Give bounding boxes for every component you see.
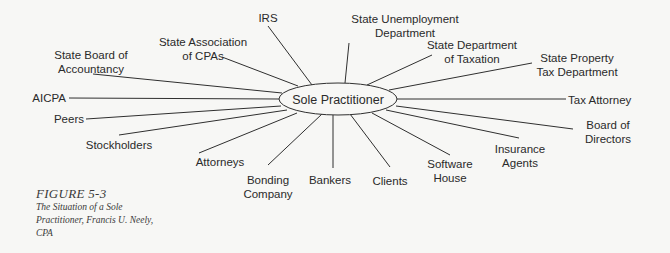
node-label-line: Attorneys — [196, 156, 245, 168]
node-stockholders: Stockholders — [86, 139, 153, 151]
node-attorneys: Attorneys — [196, 156, 245, 168]
node-software-house: SoftwareHouse — [427, 158, 472, 184]
connector-line-state-unemployment — [345, 43, 349, 83]
node-label-line: Agents — [502, 157, 538, 169]
node-label-line: Tax Attorney — [568, 94, 632, 106]
node-board-of-directors: Board ofDirectors — [585, 119, 631, 145]
hub-group: Sole Practitioner — [279, 83, 397, 115]
figure-canvas: Sole Practitioner IRSState UnemploymentD… — [0, 0, 670, 253]
node-label-line: Stockholders — [86, 139, 153, 151]
node-bankers: Bankers — [309, 174, 351, 186]
node-irs: IRS — [258, 12, 278, 24]
node-label-line: Insurance — [495, 143, 546, 155]
node-label-line: Bonding — [247, 174, 289, 186]
node-label-line: Department — [375, 27, 436, 39]
node-label-line: State Department — [427, 39, 518, 51]
node-label-line: House — [433, 172, 466, 184]
node-label-line: of CPAs — [182, 50, 224, 62]
node-label-line: Directors — [585, 133, 631, 145]
node-label-line: IRS — [258, 12, 278, 24]
node-state-dept-taxation: State Departmentof Taxation — [427, 39, 518, 65]
node-state-board-accountancy: State Board ofAccountancy — [54, 49, 128, 75]
connector-line-insurance-agents — [386, 110, 519, 138]
connector-line-state-association-cpas — [222, 57, 298, 86]
node-label-line: of Taxation — [444, 53, 499, 65]
node-label-line: Peers — [54, 113, 84, 125]
node-insurance-agents: InsuranceAgents — [495, 143, 546, 169]
hub-label: Sole Practitioner — [292, 93, 384, 107]
connector-line-attorneys — [199, 113, 297, 153]
node-state-property-tax: State PropertyTax Department — [536, 52, 618, 78]
caption-line: The Situation of a Sole — [36, 201, 186, 214]
node-bonding-company: BondingCompany — [243, 174, 292, 200]
node-label-line: State Property — [540, 52, 614, 64]
node-label-line: Tax Department — [536, 66, 618, 78]
node-label-line: AICPA — [32, 92, 66, 104]
caption-line: CPA — [36, 227, 186, 240]
connector-line-irs — [268, 26, 312, 85]
node-label-line: State Unemployment — [351, 13, 459, 25]
caption-line: Practitioner, Francis U. Neely, — [36, 214, 186, 227]
node-label-line: Accountancy — [58, 63, 124, 75]
connector-line-stockholders — [119, 110, 287, 135]
node-label-line: Board of — [586, 119, 630, 131]
connector-line-clients — [350, 114, 390, 167]
node-label-line: Software — [427, 158, 472, 170]
node-label-line: Clients — [372, 175, 407, 187]
node-state-association-cpas: State Associationof CPAs — [159, 36, 247, 62]
node-label-line: Bankers — [309, 174, 351, 186]
connector-line-software-house — [372, 113, 450, 155]
figure-number: FIGURE 5-3 — [36, 186, 186, 201]
connector-line-peers — [86, 106, 281, 119]
figure-caption: FIGURE 5-3 The Situation of a Sole Pract… — [36, 186, 186, 240]
connector-line-state-property-tax — [389, 63, 532, 90]
node-label-line: State Board of — [54, 49, 128, 61]
node-aicpa: AICPA — [32, 92, 66, 104]
node-clients: Clients — [372, 175, 407, 187]
node-state-unemployment: State UnemploymentDepartment — [351, 13, 459, 39]
node-tax-attorney: Tax Attorney — [568, 94, 632, 106]
connector-line-state-board-accountancy — [93, 74, 282, 93]
node-label-line: Company — [243, 188, 292, 200]
node-peers: Peers — [54, 113, 84, 125]
node-label-line: State Association — [159, 36, 247, 48]
connector-line-state-dept-taxation — [367, 55, 432, 85]
connector-line-aicpa — [69, 98, 279, 99]
